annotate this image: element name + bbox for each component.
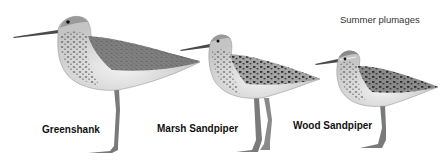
label-wood-sandpiper: Wood Sandpiper xyxy=(293,120,372,131)
marsh-sandpiper-illustration xyxy=(180,35,320,152)
label-marsh-sandpiper: Marsh Sandpiper xyxy=(157,123,238,134)
wood-sandpiper-illustration xyxy=(315,51,438,148)
plate-caption: Summer plumages xyxy=(340,14,420,25)
label-greenshank: Greenshank xyxy=(42,124,100,135)
